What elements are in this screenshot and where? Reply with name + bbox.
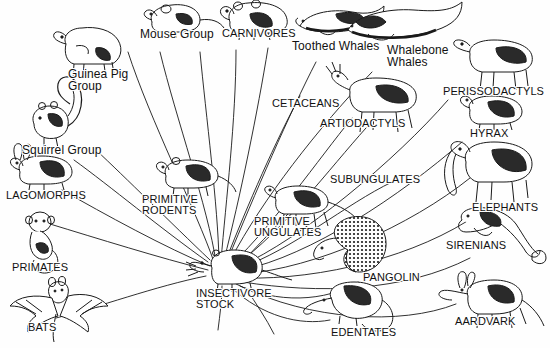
animal-anteater bbox=[304, 282, 393, 331]
animal-primitive-rodent bbox=[156, 158, 236, 197]
label-squirrel-group: Squirrel Group bbox=[22, 144, 101, 156]
label-perissodactyls: PERISSODACTYLS bbox=[443, 86, 544, 97]
diagram-artwork bbox=[0, 0, 550, 348]
label-guinea-pig-group: Guinea Pig Group bbox=[68, 68, 128, 93]
label-cetaceans: CETACEANS bbox=[272, 98, 339, 109]
animal-bat bbox=[10, 277, 108, 343]
mammal-radiation-diagram: Guinea Pig Group Mouse Group CARNIVORES … bbox=[0, 0, 550, 348]
label-primitive-ungulates: PRIMITIVE UNGULATES bbox=[254, 216, 321, 239]
animal-pangolin bbox=[314, 217, 386, 273]
label-primates: PRIMATES bbox=[12, 262, 68, 273]
label-carnivores: CARNIVORES bbox=[222, 28, 296, 39]
label-whalebone-whales: Whalebone Whales bbox=[387, 44, 449, 69]
label-primitive-rodents: PRIMITIVE RODENTS bbox=[142, 194, 198, 217]
animal-manatee bbox=[459, 208, 546, 264]
animal-baleen-whale bbox=[348, 2, 462, 40]
animal-elephant bbox=[445, 142, 532, 202]
animal-tapir bbox=[454, 40, 533, 90]
label-hyrax: HYRAX bbox=[470, 128, 508, 139]
label-aardvark: AARDVARK bbox=[455, 316, 516, 327]
label-toothed-whales: Toothed Whales bbox=[292, 40, 379, 52]
label-elephants: ELEPHANTS bbox=[472, 202, 538, 213]
label-subungulates: SUBUNGULATES bbox=[330, 174, 420, 185]
label-edentates: EDENTATES bbox=[331, 327, 396, 338]
label-bats: BATS bbox=[28, 322, 56, 333]
label-lagomorphs: LAGOMORPHS bbox=[6, 190, 86, 201]
animal-hyrax bbox=[460, 96, 522, 130]
label-mouse-group: Mouse Group bbox=[140, 28, 214, 40]
label-insectivore-stock: INSECTIVORE STOCK bbox=[196, 288, 272, 311]
label-sirenians: SIRENIANS bbox=[446, 240, 506, 251]
label-artiodactyls: ARTIODACTYLS bbox=[320, 118, 405, 129]
label-pangolin: PANGOLIN bbox=[363, 272, 420, 283]
